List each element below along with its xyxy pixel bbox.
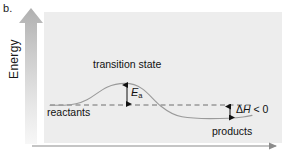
enthalpy-change-label: ΔH < 0	[236, 103, 268, 115]
energy-diagram-figure: b. Energy	[0, 0, 284, 156]
enthalpy-relation: < 0	[251, 103, 269, 115]
reactants-label: reactants	[47, 106, 90, 118]
activation-energy-label: Ea	[131, 86, 143, 98]
enthalpy-symbol: H	[243, 103, 251, 115]
activation-energy-subscript: a	[138, 91, 142, 100]
delta-symbol: Δ	[236, 103, 243, 115]
products-label: products	[212, 125, 252, 137]
transition-state-label: transition state	[93, 58, 161, 70]
